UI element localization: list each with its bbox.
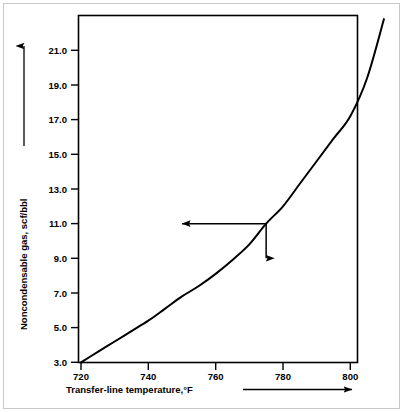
plot-frame bbox=[79, 16, 358, 363]
y-tick-label-9: 9.0 bbox=[54, 253, 67, 264]
y-tick-label-21: 21.0 bbox=[49, 45, 68, 56]
y-tick-label-7: 7.0 bbox=[54, 288, 67, 299]
y-tick-label-3: 3.0 bbox=[54, 357, 67, 368]
x-axis-tick-labels: 720 740 760 780 800 bbox=[73, 371, 358, 382]
y-tick-label-5: 5.0 bbox=[54, 322, 67, 333]
y-tick-label-15: 15.0 bbox=[49, 149, 68, 160]
plot-area-border bbox=[79, 16, 358, 363]
x-tick-label-760: 760 bbox=[208, 371, 224, 382]
y-tick-label-13: 13.0 bbox=[49, 184, 68, 195]
y-axis-title: Noncondensable gas, scf/bbl bbox=[18, 199, 29, 330]
x-tick-label-740: 740 bbox=[140, 371, 156, 382]
figure-container: 21.0 19.0 17.0 15.0 13.0 11.0 9.0 7.0 5.… bbox=[0, 0, 403, 412]
chart-canvas: 21.0 19.0 17.0 15.0 13.0 11.0 9.0 7.0 5.… bbox=[0, 0, 403, 412]
x-axis-ticks bbox=[81, 363, 350, 371]
x-tick-label-720: 720 bbox=[73, 371, 89, 382]
y-tick-label-11: 11.0 bbox=[49, 218, 67, 229]
y-tick-label-17: 17.0 bbox=[49, 114, 68, 125]
x-tick-label-800: 800 bbox=[342, 371, 358, 382]
y-tick-label-19: 19.0 bbox=[49, 80, 68, 91]
y-axis-tick-labels: 21.0 19.0 17.0 15.0 13.0 11.0 9.0 7.0 5.… bbox=[49, 45, 68, 368]
x-tick-label-780: 780 bbox=[275, 371, 291, 382]
x-axis-title: Transfer-line temperature,°F bbox=[66, 384, 193, 395]
